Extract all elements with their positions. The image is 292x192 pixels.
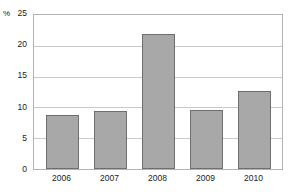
y-tick-label-5: 5 bbox=[22, 134, 27, 143]
x-tick-label-2007: 2007 bbox=[88, 173, 131, 183]
plot-area bbox=[33, 14, 283, 170]
bar-2010 bbox=[238, 91, 271, 169]
x-tick-label-2006: 2006 bbox=[40, 173, 83, 183]
bar-2006 bbox=[46, 115, 79, 169]
bar-2008 bbox=[142, 34, 175, 170]
x-tick-label-2008: 2008 bbox=[136, 173, 179, 183]
bar-chart: % 25 20 15 10 5 0 2006 2007 2008 2009 20… bbox=[0, 0, 292, 192]
x-axis-tick-labels: 2006 2007 2008 2009 2010 bbox=[33, 173, 283, 187]
y-tick-label-0: 0 bbox=[22, 165, 27, 174]
x-tick-label-2010: 2010 bbox=[232, 173, 275, 183]
y-tick-label-20: 20 bbox=[18, 40, 27, 49]
y-tick-label-25: 25 bbox=[18, 9, 27, 18]
y-tick-label-15: 15 bbox=[18, 71, 27, 80]
bar-2009 bbox=[190, 110, 223, 169]
y-tick-label-10: 10 bbox=[18, 103, 27, 112]
x-tick-label-2009: 2009 bbox=[184, 173, 227, 183]
y-axis-tick-labels: 25 20 15 10 5 0 bbox=[0, 0, 30, 192]
bars-layer bbox=[34, 15, 282, 169]
bar-2007 bbox=[94, 111, 127, 169]
